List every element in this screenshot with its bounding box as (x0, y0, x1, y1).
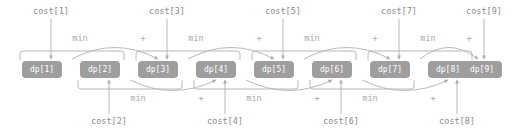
min-arc-top-4 (420, 48, 478, 60)
plus-label-top-1: + (103, 33, 183, 43)
cost-label-top-5: cost[9] (444, 6, 518, 16)
cost-label-top-4: cost[7] (359, 6, 439, 16)
dp-node-9: dp[9] (462, 61, 502, 78)
dp-node-6: dp[6] (312, 61, 352, 78)
cost-label-top-3: cost[5] (243, 6, 323, 16)
brackets-bottom-group (78, 80, 414, 89)
dp-node-2: dp[2] (80, 61, 120, 78)
min-arc-top-3 (304, 48, 390, 60)
cost-label-bottom-4: cost[8] (417, 116, 497, 126)
plus-label-bottom-2: + (277, 93, 357, 103)
cost-label-top-2: cost[3] (127, 6, 207, 16)
dp-node-1: dp[1] (22, 61, 62, 78)
dp-node-4: dp[4] (196, 61, 236, 78)
min-arc-top-1 (72, 48, 158, 60)
cost-label-bottom-2: cost[4] (185, 116, 265, 126)
bracket-bottom-2 (194, 80, 298, 89)
bracket-bottom-3 (310, 80, 414, 89)
dp-node-7: dp[7] (370, 61, 410, 78)
plus-label-bottom-1: + (161, 93, 241, 103)
dp-node-3: dp[3] (138, 61, 178, 78)
min-arc-top-2 (188, 48, 274, 60)
dp-node-5: dp[5] (254, 61, 294, 78)
plus-label-top-4: + (429, 33, 509, 43)
arcs-top-group (72, 48, 478, 60)
plus-label-bottom-3: + (393, 93, 473, 103)
dp-recurrence-diagram: dp[1]dp[2]dp[3]dp[4]dp[5]dp[6]dp[7]dp[8]… (0, 0, 518, 137)
cost-label-top-1: cost[1] (11, 6, 91, 16)
plus-label-top-2: + (219, 33, 299, 43)
cost-label-bottom-1: cost[2] (69, 116, 149, 126)
cost-label-bottom-3: cost[6] (301, 116, 381, 126)
bracket-bottom-1 (78, 80, 182, 89)
plus-label-top-3: + (335, 33, 415, 43)
